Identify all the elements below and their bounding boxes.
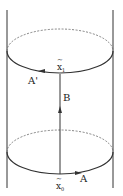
a-prime-arrowhead-icon xyxy=(38,69,45,73)
a-label: A xyxy=(80,174,87,184)
cylinder-diagram xyxy=(0,0,123,196)
top-circle-back xyxy=(7,29,113,51)
a-prime-label: A' xyxy=(28,76,38,86)
x0-subscript: 0 xyxy=(61,186,64,192)
x1-label: x1 xyxy=(57,63,65,73)
b-label: B xyxy=(63,93,70,103)
x0-label: x0 xyxy=(56,182,64,192)
b-arrowhead-icon xyxy=(58,106,62,113)
x1-subscript: 1 xyxy=(62,67,65,73)
